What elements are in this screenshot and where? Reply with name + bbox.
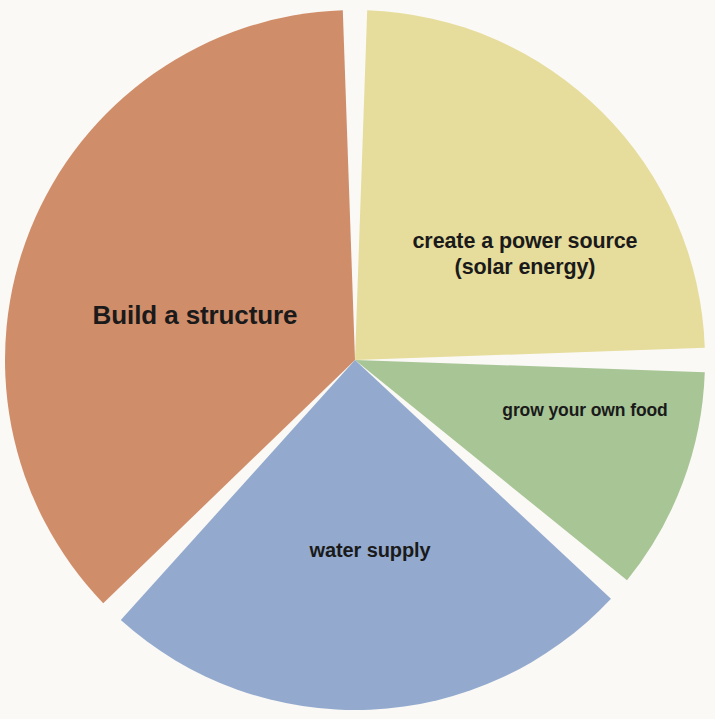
- pie-chart: Build a structure create a power source …: [0, 0, 715, 719]
- pie-chart-canvas: [0, 0, 715, 719]
